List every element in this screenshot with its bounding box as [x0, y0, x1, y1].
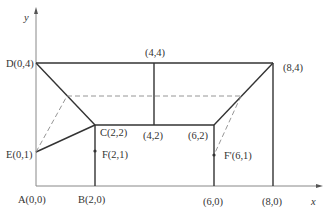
label-8-4: (8,4) [283, 62, 304, 74]
x-axis-label: x [310, 196, 316, 207]
y-axis-arrow-icon [34, 7, 38, 14]
point-F-prime-marker [212, 153, 215, 156]
label-4-4: (4,4) [145, 47, 166, 59]
dashed-right-to-F-prime [214, 96, 241, 155]
label-D: D(0,4) [6, 58, 34, 70]
coordinate-diagram: y x D(0,4) (4,4) (8,4) C(2,2) (4,2) (6,2… [0, 0, 326, 220]
line-8-4-to-6-2 [214, 63, 273, 125]
y-axis-label: y [23, 12, 29, 23]
solid-lines [36, 63, 273, 186]
x-axis-arrow-icon [316, 184, 323, 188]
line-E-to-C [36, 125, 95, 152]
label-C: C(2,2) [100, 127, 128, 139]
label-6-0: (6,0) [203, 196, 224, 208]
point-F-marker [93, 149, 96, 152]
label-B: B(2,0) [78, 194, 106, 206]
label-8-0: (8,0) [262, 196, 283, 208]
line-D-to-C [36, 63, 95, 125]
dashed-E-to-left [36, 96, 67, 152]
label-6-2: (6,2) [188, 130, 209, 142]
axes [34, 7, 323, 188]
label-A: A(0,0) [18, 194, 46, 206]
label-F-prime: F'(6,1) [224, 150, 252, 162]
label-4-2: (4,2) [143, 130, 164, 142]
label-F: F(2,1) [102, 149, 128, 161]
label-E: E(0,1) [6, 149, 33, 161]
